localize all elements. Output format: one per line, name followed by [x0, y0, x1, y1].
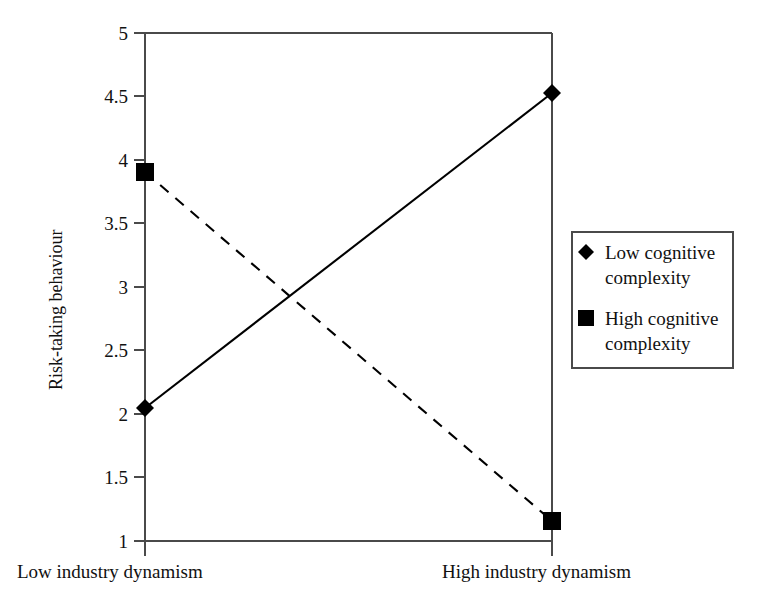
- x-category-label-low: Low industry dynamism: [17, 561, 203, 583]
- legend-item-low-cognitive-line2: complexity: [605, 266, 690, 289]
- y-tick-label-1: 1: [119, 532, 129, 551]
- y-tick-label-2-5: 2.5: [104, 341, 128, 360]
- y-tick-marks: [134, 33, 145, 541]
- legend-item-high-cognitive-line2: complexity: [605, 332, 690, 355]
- y-tick-label-4: 4: [119, 151, 129, 170]
- y-axis-title: Risk-taking behaviour: [46, 230, 67, 390]
- series-low-cognitive-line: [145, 93, 552, 408]
- y-tick-label-1-5: 1.5: [104, 468, 128, 487]
- y-tick-label-3-5: 3.5: [104, 214, 128, 233]
- y-tick-label-5: 5: [119, 24, 129, 43]
- series-high-cognitive-line: [145, 172, 552, 521]
- y-tick-label-2: 2: [119, 405, 129, 424]
- legend-square-icon: [578, 310, 594, 326]
- series-low-cognitive-marker-right: [543, 84, 561, 102]
- y-tick-label-3: 3: [119, 278, 129, 297]
- series-high-cognitive-marker-left: [136, 163, 154, 181]
- legend-item-low-cognitive-line1: Low cognitive: [605, 241, 715, 264]
- x-category-label-high: High industry dynamism: [442, 561, 631, 583]
- legend-item-high-cognitive-line1: High cognitive: [605, 307, 718, 330]
- y-tick-label-4-5: 4.5: [104, 87, 128, 106]
- chart-figure: 5 4.5 4 3.5 3 2.5 2 1.5 1 Risk-taking be…: [0, 0, 759, 601]
- series-high-cognitive-marker-right: [543, 512, 561, 530]
